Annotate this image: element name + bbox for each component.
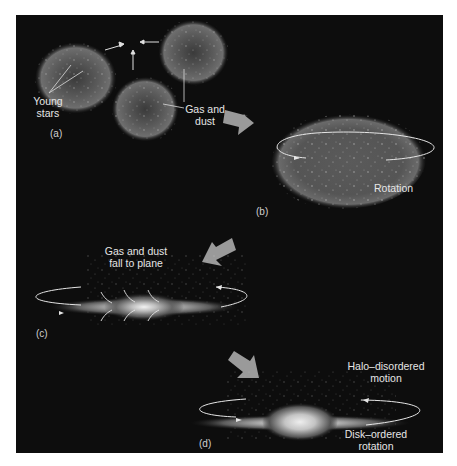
label-halo-motion: Halo–disordered motion bbox=[346, 360, 426, 384]
panel-tag-d: (d) bbox=[199, 438, 211, 449]
label-line: dust bbox=[175, 115, 235, 127]
panel-tag-b: (b) bbox=[256, 206, 268, 217]
label-line: Disk–ordered bbox=[336, 428, 416, 440]
label-disk-rotation: Disk–ordered rotation bbox=[336, 428, 416, 452]
panel-tag-a: (a) bbox=[50, 128, 62, 139]
label-line: motion bbox=[346, 372, 426, 384]
panel-tag-c: (c) bbox=[36, 328, 48, 339]
cloud-b bbox=[271, 115, 426, 209]
label-line: fall to plane bbox=[96, 257, 176, 269]
cloud-right bbox=[159, 20, 229, 85]
diagram-panel: Young stars Gas and dust (a) Rotation (b… bbox=[16, 15, 443, 453]
cloud-middle bbox=[112, 77, 178, 141]
label-line: Gas and dust bbox=[96, 245, 176, 257]
label-fall-to-plane: Gas and dust fall to plane bbox=[96, 245, 176, 269]
label-line: Young bbox=[26, 95, 70, 107]
label-line: rotation bbox=[336, 440, 416, 452]
diagram-graphics bbox=[16, 15, 443, 453]
label-line: stars bbox=[26, 107, 70, 119]
label-rotation: Rotation bbox=[374, 182, 413, 194]
label-line: Gas and bbox=[175, 103, 235, 115]
label-young-stars: Young stars bbox=[26, 95, 70, 119]
label-gas-dust: Gas and dust bbox=[175, 103, 235, 127]
label-line: Halo–disordered bbox=[346, 360, 426, 372]
